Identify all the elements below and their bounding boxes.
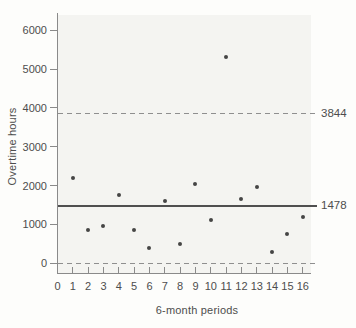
y-tick-label-1000: 1000 — [11, 218, 47, 230]
reference-line-1478 — [58, 205, 317, 207]
x-tick-12 — [241, 267, 242, 274]
y-tick-label-6000: 6000 — [11, 24, 47, 36]
x-tick-label-16: 16 — [294, 280, 312, 292]
reference-line-3844 — [58, 113, 317, 114]
y-tick-0 — [50, 263, 58, 264]
y-tick-5000 — [50, 69, 58, 70]
y-tick-label-5000: 5000 — [11, 63, 47, 75]
x-tick-9 — [195, 267, 196, 274]
data-point-14 — [270, 250, 274, 254]
overtime-control-chart: 0100020003000400050006000 01234567891011… — [0, 0, 356, 328]
reference-line-label-1478: 1478 — [321, 199, 347, 212]
y-tick-1000 — [50, 224, 58, 225]
plot-area — [58, 15, 311, 273]
y-axis-title: Overtime hours — [6, 92, 19, 202]
x-axis-spine — [57, 273, 311, 274]
x-tick-13 — [256, 267, 257, 274]
x-tick-7 — [164, 267, 165, 274]
x-tick-11 — [226, 267, 227, 274]
x-tick-6 — [149, 267, 150, 274]
x-tick-4 — [118, 267, 119, 274]
x-tick-10 — [210, 267, 211, 274]
y-tick-3000 — [50, 146, 58, 147]
reference-line-lower — [58, 263, 317, 264]
x-axis-title: 6-month periods — [137, 304, 257, 316]
data-point-1 — [71, 176, 75, 180]
x-tick-2 — [88, 267, 89, 274]
y-tick-4000 — [50, 107, 58, 108]
x-tick-16 — [302, 267, 303, 274]
x-tick-1 — [72, 267, 73, 274]
y-tick-6000 — [50, 30, 58, 31]
x-tick-15 — [287, 267, 288, 274]
x-tick-14 — [272, 267, 273, 274]
data-point-10 — [209, 218, 213, 222]
y-tick-2000 — [50, 185, 58, 186]
x-tick-3 — [103, 267, 104, 274]
data-point-7 — [163, 199, 167, 203]
x-tick-8 — [180, 267, 181, 274]
x-tick-5 — [134, 267, 135, 274]
data-point-8 — [178, 242, 182, 246]
y-tick-label-0: 0 — [11, 257, 47, 269]
data-point-16 — [301, 215, 305, 219]
reference-line-label-3844: 3844 — [321, 107, 347, 120]
y-axis-spine — [57, 13, 58, 274]
